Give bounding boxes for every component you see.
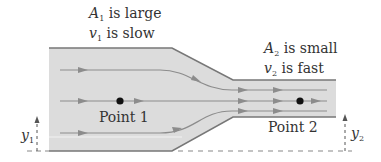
y1-arrow-up-icon bbox=[35, 116, 40, 123]
y2-arrow-up-icon bbox=[343, 114, 348, 121]
y1-label: y1 bbox=[20, 127, 34, 145]
area-2-label: A2 is small bbox=[262, 40, 338, 58]
velocity-2-label: v2 is fast bbox=[264, 60, 324, 78]
area-1-label: A1 is large bbox=[87, 5, 162, 23]
point-1-label: Point 1 bbox=[99, 109, 149, 125]
velocity-1-label: v1 is slow bbox=[89, 25, 155, 43]
continuity-diagram: Point 1 Point 2 A1 is large v1 is slow A… bbox=[0, 0, 381, 162]
point-2-label: Point 2 bbox=[268, 119, 318, 135]
point-1-marker bbox=[116, 97, 123, 104]
y2-label: y2 bbox=[350, 125, 364, 143]
point-2-marker bbox=[296, 97, 303, 104]
